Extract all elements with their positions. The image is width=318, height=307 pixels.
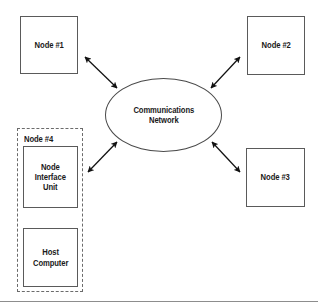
communications-network-ellipse[interactable]: Communications Network [105, 78, 222, 152]
node4-group-label: Node #4 [24, 134, 53, 144]
communications-network-label-line1: Communications [133, 105, 194, 115]
arrow-node4-to-network [88, 142, 117, 172]
node-interface-unit-box[interactable]: Node Interface Unit [23, 146, 78, 208]
arrow-node2-to-network [211, 57, 240, 88]
niu-label-line2: Interface [35, 172, 66, 182]
arrow-node1-to-network [85, 57, 117, 88]
node-box-node1[interactable]: Node #1 [20, 16, 78, 74]
node3-label: Node #3 [261, 172, 290, 182]
niu-label-line1: Node [41, 162, 60, 172]
node-interface-unit-label: Node Interface Unit [35, 162, 66, 192]
node1-label: Node #1 [34, 40, 63, 50]
arrow-node3-to-network [212, 142, 240, 172]
bottom-divider-rule [0, 301, 318, 302]
communications-network-label-line2: Network [149, 115, 179, 125]
node-box-node2[interactable]: Node #2 [247, 16, 305, 75]
network-diagram: Node #1 Node #2 Node #3 Communications N… [0, 0, 318, 307]
niu-label-line3: Unit [43, 182, 58, 192]
host-computer-label: Host Computer [33, 247, 68, 267]
host-label-line1: Host [42, 247, 59, 257]
host-label-line2: Computer [33, 258, 68, 268]
host-computer-box[interactable]: Host Computer [23, 228, 78, 287]
node-box-node3[interactable]: Node #3 [246, 148, 305, 207]
communications-network-label: Communications Network [133, 105, 194, 125]
node2-label: Node #2 [261, 40, 290, 50]
